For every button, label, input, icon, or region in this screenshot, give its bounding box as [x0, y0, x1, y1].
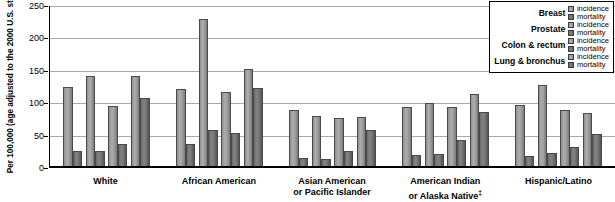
- y-tickmark-50: [44, 136, 48, 137]
- y-tick-100: 100: [29, 98, 44, 108]
- x-category-label-line1: Hispanic/Latino: [502, 176, 615, 187]
- bar-pair: [402, 6, 421, 166]
- bar: [447, 107, 457, 166]
- y-axis-tick-labels: 250 200 150 100 50 0: [22, 6, 49, 176]
- x-category-label: Asian Americanor Pacific Islander: [275, 176, 388, 202]
- bar: [344, 151, 354, 166]
- bar: [412, 155, 422, 166]
- bar-pair: [312, 6, 331, 166]
- bar: [592, 134, 602, 166]
- bar: [199, 19, 209, 166]
- bar: [538, 85, 548, 166]
- legend-row: Colon & rectumincidencemortality: [494, 37, 609, 53]
- bar-pair: [425, 6, 444, 166]
- bar-group: [50, 6, 163, 166]
- x-category-label-line1: African American: [162, 176, 275, 187]
- footnote-marker: ‡: [478, 189, 482, 196]
- bar-pair: [447, 6, 466, 166]
- bar: [131, 76, 141, 166]
- legend-keys: incidencemortality: [568, 21, 609, 37]
- legend-cancer-name: Lung & bronchus: [494, 56, 568, 66]
- bar: [140, 98, 150, 166]
- x-category-label-line1: Asian American: [275, 176, 388, 187]
- y-tickmark-200: [44, 38, 48, 39]
- bar: [457, 140, 467, 166]
- x-category-label: White: [49, 176, 162, 202]
- legend-cancer-name: Breast: [494, 8, 568, 18]
- bar: [334, 118, 344, 166]
- bar: [289, 110, 299, 166]
- bar: [118, 144, 128, 166]
- legend-cancer-name: Colon & rectum: [494, 40, 568, 50]
- bar-pair: [357, 6, 376, 166]
- legend: BreastincidencemortalityProstateincidenc…: [489, 1, 614, 73]
- y-tickmark-0: [44, 168, 48, 169]
- bar-pair: [244, 6, 263, 166]
- bar: [95, 151, 105, 166]
- bar: [434, 154, 444, 166]
- bar: [570, 147, 580, 166]
- bar: [560, 110, 570, 166]
- legend-keys: incidencemortality: [568, 37, 609, 53]
- x-category-label-line1: American Indian: [389, 176, 502, 187]
- y-tick-50: 50: [34, 131, 44, 141]
- legend-rows: BreastincidencemortalityProstateincidenc…: [494, 5, 609, 69]
- bar: [108, 106, 118, 166]
- legend-swatch-incidence-icon: [568, 6, 574, 12]
- bar: [221, 92, 231, 166]
- legend-swatch-mortality-icon: [568, 62, 574, 68]
- bar-pair: [470, 6, 489, 166]
- y-tick-150: 150: [29, 66, 44, 76]
- bar: [312, 116, 322, 166]
- legend-row: Prostateincidencemortality: [494, 21, 609, 37]
- y-tickmark-250: [44, 6, 48, 7]
- bar: [63, 87, 73, 166]
- x-category-label: Hispanic/Latino: [502, 176, 615, 202]
- bar-pair: [221, 6, 240, 166]
- bar-pair: [199, 6, 218, 166]
- legend-keys: incidencemortality: [568, 5, 609, 21]
- bar: [244, 69, 254, 166]
- bar: [357, 117, 367, 166]
- y-tick-250: 250: [29, 1, 44, 11]
- legend-swatch-mortality-icon: [568, 46, 574, 52]
- bar-pair: [86, 6, 105, 166]
- legend-swatch-incidence-icon: [568, 54, 574, 60]
- bar: [402, 107, 412, 166]
- bar-pair: [131, 6, 150, 166]
- bar: [253, 88, 263, 166]
- x-axis-category-labels: WhiteAfrican AmericanAsian Americanor Pa…: [49, 176, 615, 202]
- bar: [321, 159, 331, 166]
- legend-swatch-incidence-icon: [568, 38, 574, 44]
- x-category-label-line2: or Alaska Native‡: [389, 187, 502, 202]
- bar-group: [389, 6, 502, 166]
- bar-group: [276, 6, 389, 166]
- y-axis-title-text: Per 100,000 (age adjusted to the 2000 U.…: [6, 3, 17, 173]
- bar: [470, 94, 480, 166]
- bar-pair: [63, 6, 82, 166]
- bar: [425, 103, 435, 166]
- bar: [186, 144, 196, 166]
- x-category-label-line1: White: [49, 176, 162, 187]
- bar: [583, 113, 593, 166]
- x-category-label: African American: [162, 176, 275, 202]
- y-tick-200: 200: [29, 33, 44, 43]
- x-category-label-line2: or Pacific Islander: [275, 187, 388, 198]
- bar: [208, 130, 218, 166]
- bar-pair: [289, 6, 308, 166]
- x-category-label: American Indianor Alaska Native‡: [389, 176, 502, 202]
- bar: [176, 89, 186, 166]
- bar-pair: [176, 6, 195, 166]
- y-tickmark-150: [44, 71, 48, 72]
- bar: [366, 130, 376, 166]
- bar: [231, 133, 241, 166]
- legend-row: Lung & bronchusincidencemortality: [494, 53, 609, 69]
- legend-key-label: mortality: [577, 61, 606, 69]
- bar: [86, 76, 96, 166]
- bar: [73, 151, 83, 166]
- legend-swatch-mortality-icon: [568, 30, 574, 36]
- legend-keys: incidencemortality: [568, 53, 609, 69]
- y-axis-title: Per 100,000 (age adjusted to the 2000 U.…: [0, 0, 22, 176]
- bar: [515, 105, 525, 166]
- legend-key-mortality: mortality: [568, 61, 609, 69]
